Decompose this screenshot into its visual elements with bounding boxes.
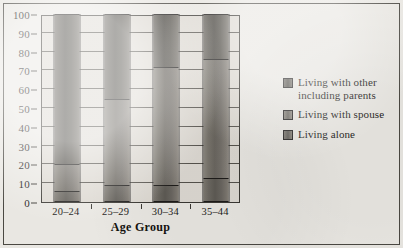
- x-tick-label: 30–34: [152, 206, 179, 217]
- y-tick-label: 90: [19, 28, 30, 40]
- y-tick-label: 70: [19, 65, 30, 77]
- x-tick-mark: [190, 204, 191, 209]
- bar-segment[interactable]: [204, 14, 229, 59]
- bar-segment[interactable]: [204, 178, 229, 202]
- y-tick-label: 20: [19, 159, 30, 171]
- x-tick-mark: [141, 204, 142, 209]
- y-tick-mark: [31, 127, 37, 128]
- x-tick-label: 20–24: [52, 206, 79, 217]
- y-tick-label: 30: [19, 141, 30, 153]
- bar-slot: [142, 16, 192, 202]
- legend-label: Living with otherincluding parents: [298, 76, 377, 101]
- y-tick-mark: [31, 184, 37, 185]
- y-tick-label: 100: [13, 9, 30, 21]
- y-tick-label: 0: [24, 197, 30, 209]
- y-tick-label: 10: [19, 178, 30, 190]
- plot-area: [41, 15, 240, 203]
- bar-segment[interactable]: [54, 14, 79, 164]
- y-tick-mark: [31, 52, 37, 53]
- y-tick-mark: [31, 109, 37, 110]
- y-tick-label: 50: [19, 103, 30, 115]
- legend-swatch-icon: [283, 78, 293, 88]
- legend-item[interactable]: Living with otherincluding parents: [283, 76, 395, 101]
- y-tick-mark: [31, 203, 37, 204]
- bar-segment[interactable]: [154, 185, 179, 202]
- stacked-bar[interactable]: [103, 14, 130, 202]
- y-tick-mark: [31, 90, 37, 91]
- y-tick-mark: [31, 165, 37, 166]
- bar-slot: [92, 16, 142, 202]
- y-tick-mark: [31, 33, 37, 34]
- y-tick-mark: [31, 15, 37, 16]
- bar-segment[interactable]: [204, 59, 229, 177]
- legend-label: Living with spouse: [298, 108, 384, 121]
- y-tick-label: 40: [19, 122, 30, 134]
- x-tick-label: 35–44: [202, 206, 229, 217]
- legend-swatch-icon: [283, 110, 293, 120]
- bar-segment[interactable]: [104, 14, 129, 99]
- legend-item[interactable]: Living alone: [283, 128, 395, 141]
- bar-slot: [42, 16, 92, 202]
- y-tick-label: 80: [19, 47, 30, 59]
- bar-segment[interactable]: [104, 99, 129, 185]
- x-tick-mark: [91, 204, 92, 209]
- x-axis-title: Age Group: [41, 220, 240, 235]
- chart-legend: Living with otherincluding parentsLiving…: [283, 76, 395, 147]
- legend-label: Living alone: [298, 128, 355, 141]
- y-axis: 0102030405060708090100: [0, 0, 38, 218]
- stacked-bar[interactable]: [53, 14, 80, 202]
- stacked-bar[interactable]: [203, 14, 230, 202]
- y-tick-mark: [31, 146, 37, 147]
- bar-segment[interactable]: [154, 14, 179, 67]
- stacked-bar[interactable]: [153, 14, 180, 202]
- bar-slot: [191, 16, 241, 202]
- bar-segment[interactable]: [54, 191, 79, 202]
- legend-item[interactable]: Living with spouse: [283, 108, 395, 121]
- bar-segment[interactable]: [54, 164, 79, 190]
- legend-swatch-icon: [283, 130, 293, 140]
- bar-segment[interactable]: [154, 67, 179, 185]
- y-tick-mark: [31, 71, 37, 72]
- bar-segment[interactable]: [104, 185, 129, 202]
- y-tick-label: 60: [19, 84, 30, 96]
- x-tick-label: 25–29: [102, 206, 129, 217]
- chart-figure: 0102030405060708090100 Age Group Living …: [0, 0, 403, 248]
